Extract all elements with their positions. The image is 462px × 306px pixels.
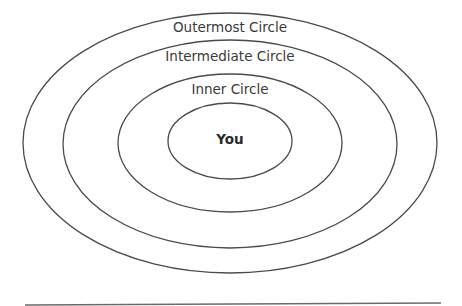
inner-circle-label: Inner Circle [191, 81, 268, 97]
concentric-circles-diagram: Outermost Circle Intermediate Circle Inn… [0, 0, 462, 306]
you-label: You [215, 131, 243, 147]
bottom-divider [25, 303, 441, 305]
intermediate-circle-label: Intermediate Circle [165, 48, 294, 64]
outermost-circle-label: Outermost Circle [173, 19, 287, 35]
